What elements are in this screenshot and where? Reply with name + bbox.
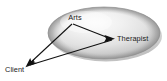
relationship-diagram: Arts Therapist Client — [0, 0, 167, 81]
node-label-client: Client — [5, 65, 24, 74]
node-label-arts: Arts — [68, 13, 82, 22]
diagram-canvas: Arts Therapist Client — [0, 0, 167, 81]
node-label-therapist: Therapist — [117, 34, 148, 43]
arrowhead-client-from-therapist — [26, 59, 37, 68]
